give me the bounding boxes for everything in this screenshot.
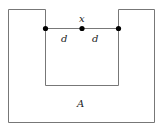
region-diagram: x d d A: [0, 0, 163, 129]
center-point-dot: [79, 26, 84, 31]
left-endpoint-dot: [43, 26, 48, 31]
right-endpoint-dot: [116, 26, 121, 31]
region-label-a: A: [76, 98, 84, 109]
distance-label-right: d: [92, 33, 98, 44]
distance-label-left: d: [61, 33, 67, 44]
point-label-x: x: [79, 13, 85, 24]
